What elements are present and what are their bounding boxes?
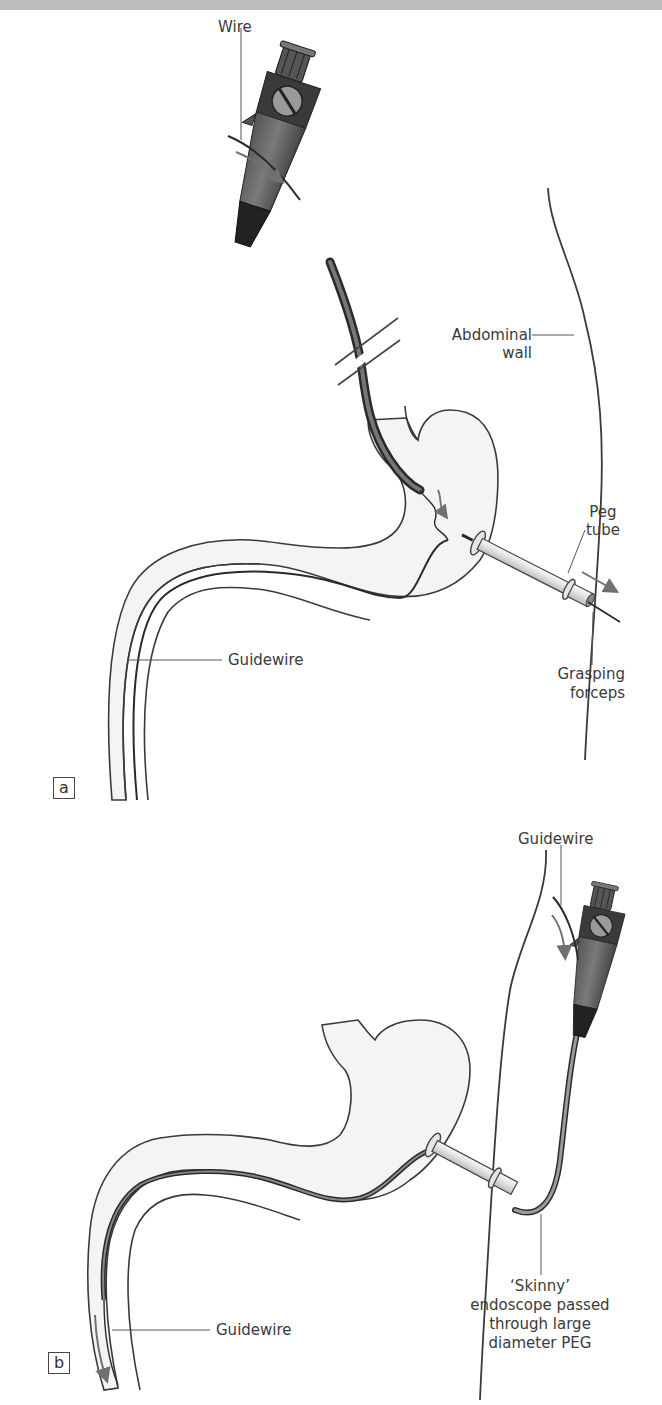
skinny-shaft-external-b (515, 1020, 580, 1213)
label-guidewire-bottom-b: Guidewire (216, 1321, 292, 1339)
label-peg-tube-line1: Peg (578, 503, 628, 521)
endoscope-handle-a (207, 37, 332, 253)
label-skinny-line3: through large (465, 1315, 615, 1333)
label-skinny-line1: ‘Skinny’ (465, 1277, 615, 1295)
label-grasping-forceps-line1: Grasping (545, 665, 625, 683)
panel-tag-b: b (48, 1352, 70, 1374)
endoscope-handle-b (551, 879, 630, 1040)
peg-tube-b (422, 1131, 520, 1199)
forceps-leader-a (592, 612, 593, 665)
duodenum-inner-b (128, 1194, 300, 1390)
duodenum-inner-a (144, 587, 370, 800)
label-guidewire-top-b: Guidewire (518, 830, 594, 848)
label-grasping-forceps-line2: forceps (545, 684, 625, 702)
label-abdominal-wall-line1: Abdominal (440, 326, 532, 344)
panel-tag-a: a (53, 777, 75, 799)
pull-arrow-a (582, 572, 614, 590)
panel-a (109, 28, 620, 800)
label-peg-tube-line2: tube (578, 521, 628, 539)
wire-arrow-b (552, 915, 565, 955)
peg-illustration (0, 0, 662, 1405)
label-wire: Wire (218, 18, 252, 36)
label-skinny-line2: endoscope passed (465, 1296, 615, 1314)
label-abdominal-wall-line2: wall (440, 344, 532, 362)
stomach-a (109, 410, 498, 800)
label-guidewire-a: Guidewire (228, 651, 304, 669)
label-skinny-line4: diameter PEG (465, 1334, 615, 1352)
